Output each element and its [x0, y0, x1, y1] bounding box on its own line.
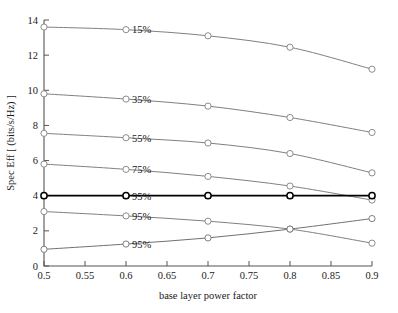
y-tick-label: 2	[33, 225, 38, 236]
series-annotation-35%: 35%	[132, 94, 152, 105]
x-tick-label: 0.8	[283, 270, 296, 281]
y-axis-title: Spec Eff [ (bits/s/Hz) ]	[5, 95, 17, 190]
series-marker-15%	[41, 24, 47, 30]
series-marker-75%	[41, 161, 47, 167]
series-annotation-95%-decreasing: 95%	[132, 211, 152, 222]
series-marker-95%-decreasing	[41, 208, 47, 214]
series-marker-75%	[123, 166, 129, 172]
y-tick-label: 12	[28, 50, 39, 61]
series-marker-35%	[205, 103, 211, 109]
series-marker-35%	[41, 91, 47, 97]
series-marker-95%-increasing	[205, 235, 211, 241]
series-marker-95%-increasing	[287, 226, 293, 232]
series-marker-95%-increasing	[123, 241, 129, 247]
series-line-35%	[44, 94, 372, 133]
series-marker-75%	[205, 173, 211, 179]
series-marker-15%	[205, 33, 211, 39]
x-tick-label: 0.9	[365, 270, 378, 281]
spectral-efficiency-line-chart: 024681012140.50.550.60.650.70.750.80.850…	[0, 0, 398, 313]
series-marker-55%	[123, 135, 129, 141]
series-annotation-95%-increasing: 95%	[132, 239, 152, 250]
series-marker-55%	[41, 130, 47, 136]
x-tick-label: 0.65	[158, 270, 176, 281]
series-annotation-55%: 55%	[132, 133, 152, 144]
series-marker-55%	[369, 170, 375, 176]
series-marker-75%	[287, 183, 293, 189]
y-tick-label: 8	[33, 120, 38, 131]
series-marker-15%	[369, 66, 375, 72]
y-tick-label: 14	[28, 15, 39, 26]
series-marker-95%-decreasing	[369, 240, 375, 246]
x-tick-label: 0.85	[322, 270, 340, 281]
x-tick-label: 0.75	[240, 270, 258, 281]
x-tick-label: 0.5	[37, 270, 50, 281]
series-marker-95%-flat	[41, 193, 47, 199]
y-tick-label: 6	[33, 155, 38, 166]
x-tick-label: 0.55	[76, 270, 94, 281]
x-tick-label: 0.6	[119, 270, 132, 281]
x-tick-label: 0.7	[201, 270, 214, 281]
x-axis-title: base layer power factor	[159, 290, 258, 301]
series-annotation-15%: 15%	[132, 24, 152, 35]
series-annotation-75%: 75%	[132, 164, 152, 175]
y-tick-label: 4	[33, 190, 39, 201]
series-marker-55%	[287, 150, 293, 156]
series-marker-35%	[123, 96, 129, 102]
series-marker-35%	[287, 114, 293, 120]
series-marker-15%	[287, 44, 293, 50]
series-marker-35%	[369, 129, 375, 135]
series-marker-95%-flat	[123, 193, 129, 199]
series-marker-55%	[205, 140, 211, 146]
y-tick-label: 10	[28, 85, 39, 96]
series-marker-15%	[123, 27, 129, 33]
series-marker-95%-increasing	[369, 215, 375, 221]
series-marker-95%-flat	[369, 193, 375, 199]
figure-container: 024681012140.50.550.60.650.70.750.80.850…	[0, 0, 398, 313]
series-marker-95%-flat	[287, 193, 293, 199]
series-marker-95%-flat	[205, 193, 211, 199]
series-marker-95%-increasing	[41, 246, 47, 252]
series-marker-95%-decreasing	[123, 213, 129, 219]
series-marker-95%-decreasing	[205, 218, 211, 224]
series-annotation-95%-flat: 95%	[132, 191, 152, 202]
